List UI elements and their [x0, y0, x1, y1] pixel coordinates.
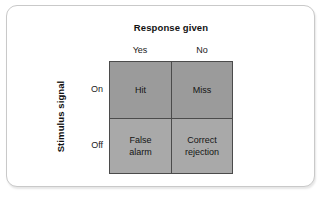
figure-root: Response given Yes No Stimulus signal On… [0, 0, 325, 198]
matrix-cell-correct-rejection: Correct rejection [171, 118, 232, 174]
row-tick-on: On [77, 84, 103, 94]
matrix-cell-hit-label: Hit [135, 84, 146, 96]
confusion-matrix: Hit Miss False alarm Correct rejection [109, 61, 233, 174]
row-axis-title: Stimulus signal [55, 69, 66, 165]
row-tick-off: Off [77, 140, 103, 150]
matrix-cell-miss-label: Miss [193, 84, 212, 96]
matrix-cell-hit: Hit [110, 62, 171, 118]
column-tick-yes: Yes [109, 45, 171, 55]
matrix-cell-false-alarm-label: False alarm [129, 134, 152, 158]
column-axis-title: Response given [109, 22, 233, 33]
matrix-cell-false-alarm: False alarm [110, 118, 171, 174]
column-tick-no: No [171, 45, 233, 55]
matrix-cell-miss: Miss [171, 62, 232, 118]
figure-card: Response given Yes No Stimulus signal On… [6, 5, 315, 187]
matrix-cell-correct-rejection-label: Correct rejection [185, 134, 219, 158]
